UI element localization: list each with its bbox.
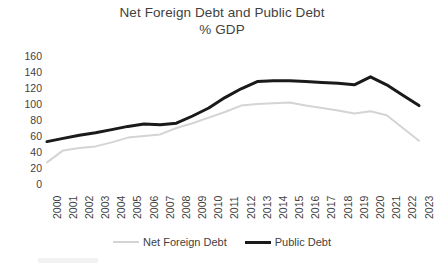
y-axis-tick-label: 160	[0, 51, 42, 62]
x-axis-tick-label: 2001	[68, 196, 79, 219]
y-axis-tick-label: 100	[0, 99, 42, 110]
x-axis-tick-label: 2013	[262, 196, 273, 219]
x-axis-tick-label: 2020	[375, 196, 386, 219]
chart-title: Net Foreign Debt and Public Debt % GDP	[0, 4, 444, 38]
plot-area	[47, 56, 419, 184]
y-axis-tick-label: 80	[0, 115, 42, 126]
x-axis-tick-label: 2004	[116, 196, 127, 219]
x-axis-tick-label: 2000	[52, 196, 63, 219]
x-axis-tick-label: 2009	[197, 196, 208, 219]
x-axis-tick-label: 2018	[343, 196, 354, 219]
x-axis-tick-label: 2019	[359, 196, 370, 219]
legend-item[interactable]: Net Foreign Debt	[113, 236, 227, 248]
y-axis-tick-label: 140	[0, 67, 42, 78]
x-axis-tick-label: 2011	[229, 196, 240, 219]
plot-svg	[47, 56, 419, 184]
x-axis-tick-label: 2021	[391, 196, 402, 219]
legend-swatch-icon	[113, 241, 139, 243]
x-axis-tick-label: 2014	[278, 196, 289, 219]
x-axis-tick-label: 2015	[294, 196, 305, 219]
x-axis: 2000200120022003200420052006200720082009…	[47, 186, 419, 232]
legend-swatch-icon	[245, 241, 271, 244]
x-axis-tick-label: 2012	[246, 196, 257, 219]
x-axis-tick-label: 2017	[326, 196, 337, 219]
x-axis-tick-label: 2023	[424, 196, 435, 219]
x-axis-tick-label: 2002	[84, 196, 95, 219]
x-axis-tick-label: 2022	[407, 196, 418, 219]
legend-item[interactable]: Public Debt	[245, 236, 331, 248]
y-axis-tick-label: 0	[0, 179, 42, 190]
chart-container: Net Foreign Debt and Public Debt % GDP 1…	[0, 0, 444, 268]
legend-item-label: Public Debt	[275, 236, 331, 248]
legend-item-label: Net Foreign Debt	[143, 236, 227, 248]
footer-artifact	[38, 258, 98, 263]
chart-legend: Net Foreign DebtPublic Debt	[0, 236, 444, 248]
chart-title-line-2: % GDP	[0, 21, 444, 38]
y-axis-tick-label: 60	[0, 131, 42, 142]
x-axis-tick-label: 2008	[181, 196, 192, 219]
x-axis-tick-label: 2016	[310, 196, 321, 219]
y-axis-tick-label: 20	[0, 163, 42, 174]
y-axis-tick-label: 40	[0, 147, 42, 158]
x-axis-tick-label: 2005	[132, 196, 143, 219]
x-axis-tick-label: 2003	[100, 196, 111, 219]
chart-title-line-1: Net Foreign Debt and Public Debt	[0, 4, 444, 21]
y-axis: 160140120100806040200	[0, 48, 42, 192]
y-axis-tick-label: 120	[0, 83, 42, 94]
x-axis-tick-label: 2010	[213, 196, 224, 219]
x-axis-tick-label: 2007	[165, 196, 176, 219]
x-axis-tick-label: 2006	[149, 196, 160, 219]
